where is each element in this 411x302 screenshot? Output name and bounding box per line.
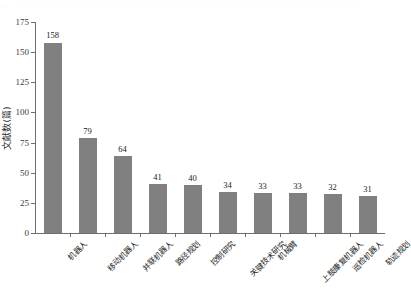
- x-tick-mark: [175, 233, 176, 237]
- bar: [114, 156, 132, 233]
- y-axis-line: [35, 22, 36, 233]
- y-tick-label: 0: [25, 228, 30, 238]
- y-tick-label: 25: [20, 198, 29, 208]
- bar-value-label: 34: [223, 180, 232, 190]
- y-tick-mark: [31, 22, 35, 23]
- x-tick-mark: [315, 233, 316, 237]
- x-tick-mark: [105, 233, 106, 237]
- bar-value-label: 158: [46, 30, 59, 40]
- y-tick-mark: [31, 173, 35, 174]
- x-tick-mark: [280, 233, 281, 237]
- x-category-label: 并联机器人: [139, 238, 174, 273]
- bar: [149, 184, 167, 233]
- x-tick-mark: [245, 233, 246, 237]
- bar-value-label: 64: [118, 144, 127, 154]
- x-tick-mark: [210, 233, 211, 237]
- y-tick-label: 100: [16, 107, 30, 117]
- bar-value-label: 33: [293, 181, 302, 191]
- y-tick-label: 50: [20, 168, 29, 178]
- y-tick-mark: [31, 143, 35, 144]
- x-category-label: 移动机器人: [104, 238, 139, 273]
- bar: [219, 192, 237, 233]
- bar-value-label: 31: [363, 184, 372, 194]
- bar-value-label: 40: [188, 173, 197, 183]
- bar: [184, 185, 202, 233]
- x-tick-mark: [140, 233, 141, 237]
- y-tick-mark: [31, 203, 35, 204]
- x-category-label: 轨迹规划: [382, 238, 411, 268]
- bar-value-label: 79: [83, 126, 92, 136]
- x-category-label: 路径规划: [172, 238, 202, 268]
- y-axis-title: 文献数(篇): [0, 106, 13, 149]
- x-category-label: 控制研究: [207, 238, 237, 268]
- bar: [359, 196, 377, 233]
- y-tick-label: 175: [16, 17, 30, 27]
- y-tick-mark: [31, 112, 35, 113]
- bar: [254, 193, 272, 233]
- x-tick-mark: [350, 233, 351, 237]
- bar: [44, 43, 62, 234]
- x-category-label: 机器人: [64, 238, 88, 262]
- bar-value-label: 32: [328, 182, 337, 192]
- bar: [79, 138, 97, 233]
- y-tick-label: 125: [16, 77, 30, 87]
- plot-area: 文献数(篇) 0255075100125150175 1587964414034…: [35, 22, 385, 233]
- bar: [324, 194, 342, 233]
- bar: [289, 193, 307, 233]
- y-tick-label: 75: [20, 138, 29, 148]
- y-tick-label: 150: [16, 47, 30, 57]
- y-tick-mark: [31, 82, 35, 83]
- bar-value-label: 41: [153, 172, 162, 182]
- y-tick-mark: [31, 233, 35, 234]
- bar-value-label: 33: [258, 181, 267, 191]
- x-tick-mark: [70, 233, 71, 237]
- page-edge-artifact-text: 。。。 ·· ·· ·· ·· ··· ···· ··· ·· ··· ·· ·…: [0, 0, 397, 7]
- y-tick-mark: [31, 52, 35, 53]
